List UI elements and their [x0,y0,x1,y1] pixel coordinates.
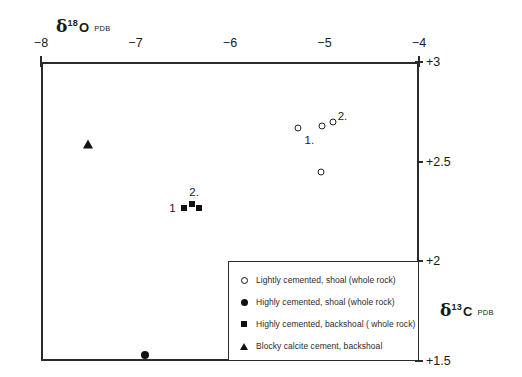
x-tick-label: −6 [223,36,237,50]
data-point-open-circle [318,122,325,129]
legend-item-label: Highly cemented, shoal (whole rock) [256,297,395,307]
data-point-annotation: 1. [305,134,315,146]
filled-square-icon [241,321,247,327]
y-tick-label: +1.5 [426,354,451,368]
legend-item: Lightly cemented, shoal (whole rock) [237,269,418,291]
data-point-open-circle [317,168,324,175]
filled-circle-icon [241,299,248,306]
legend-marker-filled-triangle-icon [237,343,251,350]
x-axis-isotope-number: 18 [68,18,78,28]
data-point-filled-circle [141,351,149,359]
y-tick-label: +2 [426,254,440,268]
y-axis-element-symbol: C [463,304,473,319]
legend-item: Highly cemented, backshoal ( whole rock) [237,313,418,335]
legend-marker-filled-circle-icon [237,299,251,306]
open-circle-icon [241,277,248,284]
x-axis-element-symbol: O [79,20,89,35]
x-axis-title: δ18OPDB [56,16,111,36]
data-point-annotation: 1 [169,202,175,214]
data-point-filled-square [181,205,187,211]
y-axis-delta-symbol: δ [440,300,452,320]
y-tick-label: +3 [426,55,440,69]
x-tick-label: −7 [128,36,142,50]
y-tick-label: +2.5 [426,155,451,169]
x-tick-label: −5 [317,36,331,50]
data-point-filled-triangle [83,139,93,148]
x-tick-label: −8 [34,36,48,50]
legend-item: Blocky calcite cement, backshoal [237,335,418,357]
data-point-annotation: 2. [338,110,348,122]
legend-item: Highly cemented, shoal (whole rock) [237,291,418,313]
legend-item-label: Highly cemented, backshoal ( whole rock) [256,319,415,329]
legend-marker-filled-square-icon [237,321,251,327]
scatter-chart-figure: δ18OPDB δ13CPDB −8−7−6−5−4 +3+2.5+2+1.5 … [0,0,522,377]
legend-marker-open-circle-icon [237,277,251,284]
y-axis-standard-label: PDB [478,308,494,317]
data-point-annotation: 2. [189,186,199,198]
legend-item-label: Blocky calcite cement, backshoal [256,341,382,351]
data-point-filled-square [196,205,202,211]
y-axis-isotope-number: 13 [452,302,462,312]
data-point-open-circle [295,124,302,131]
x-axis-standard-label: PDB [94,24,110,33]
filled-triangle-icon [240,343,248,350]
data-point-open-circle [330,118,337,125]
chart-legend: Lightly cemented, shoal (whole rock)High… [228,261,419,361]
data-point-filled-square [189,201,195,207]
x-tick-label: −4 [412,36,426,50]
x-axis-delta-symbol: δ [56,16,68,36]
legend-item-label: Lightly cemented, shoal (whole rock) [256,275,396,285]
y-axis-title: δ13CPDB [440,300,494,320]
